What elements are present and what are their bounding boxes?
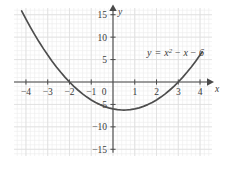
y-tick-label: 10 (98, 33, 108, 43)
x-tick-label: −1 (86, 87, 96, 97)
parabola-plot: −4−3−2−101234 15105−5−10−15 x y y=x2− x−… (0, 0, 227, 172)
equation-lhs: y (146, 47, 152, 58)
x-axis-tick-labels: −4−3−2−101234 (21, 87, 203, 97)
equation-term-2: − x (174, 47, 188, 58)
x-tick-label: 1 (132, 87, 137, 97)
x-axis-arrow (207, 78, 214, 85)
axes (14, 5, 214, 153)
y-axis-label: y (117, 7, 123, 17)
x-tick-label: 4 (198, 87, 203, 97)
x-tick-label: 0 (102, 87, 107, 97)
equation-annotation: y=x2− x− 6 (146, 47, 204, 59)
y-tick-label: 15 (98, 10, 108, 20)
figure-root: −4−3−2−101234 15105−5−10−15 x y y=x2− x−… (0, 0, 227, 172)
svg-text:y=x2− x− 6: y=x2− x− 6 (146, 47, 204, 59)
y-tick-label: −10 (92, 122, 107, 132)
equation-exponent: 2 (169, 47, 173, 55)
x-tick-label: −4 (21, 87, 31, 97)
x-tick-label: 3 (176, 87, 181, 97)
x-tick-label: −2 (64, 87, 74, 97)
x-axis-label: x (214, 84, 220, 94)
x-tick-label: 2 (154, 87, 159, 97)
y-tick-label: 5 (102, 55, 107, 65)
y-tick-label: −15 (92, 145, 107, 155)
chart-canvas: −4−3−2−101234 15105−5−10−15 x y y=x2− x−… (0, 0, 227, 172)
x-tick-label: −3 (43, 87, 53, 97)
equation-equals: = (154, 47, 161, 58)
equation-term-3: − 6 (190, 47, 204, 58)
y-axis-arrow (109, 5, 116, 12)
